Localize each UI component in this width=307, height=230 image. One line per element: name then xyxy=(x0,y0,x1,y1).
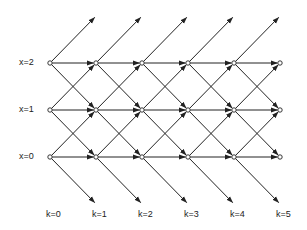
lattice-node xyxy=(48,61,52,65)
edge-up-arrow xyxy=(50,17,95,63)
lattice-node xyxy=(48,108,52,112)
edge-up-arrow xyxy=(188,17,233,63)
edge-up-arrow xyxy=(50,65,94,110)
column-label: k=3 xyxy=(184,209,199,219)
lattice-node xyxy=(94,108,98,112)
edge-up-arrow xyxy=(234,65,278,110)
edge-down-arrow xyxy=(50,110,94,155)
edge-down-arrow xyxy=(188,110,232,155)
edge-down-arrow xyxy=(142,110,186,155)
edge-down-arrow xyxy=(50,63,94,108)
edge-up-arrow xyxy=(234,17,279,63)
edge-down-arrow xyxy=(234,110,278,155)
edge-up-arrow xyxy=(234,112,278,157)
edge-up-arrow xyxy=(96,17,141,63)
row-label: x=1 xyxy=(19,104,34,114)
lattice-node xyxy=(140,61,144,65)
column-label: k=5 xyxy=(276,209,291,219)
lattice-node xyxy=(94,155,98,159)
lattice-node xyxy=(278,155,282,159)
lattice-node xyxy=(140,155,144,159)
column-label: k=0 xyxy=(46,209,61,219)
lattice-node xyxy=(94,61,98,65)
edge-down-arrow xyxy=(96,157,141,203)
edge-up-arrow xyxy=(96,112,140,157)
edge-down-arrow xyxy=(142,157,187,203)
edge-up-arrow xyxy=(142,17,187,63)
edge-down-arrow xyxy=(142,63,186,108)
lattice-node xyxy=(232,61,236,65)
row-label: x=2 xyxy=(19,57,34,67)
lattice-node xyxy=(232,108,236,112)
lattice-node xyxy=(186,155,190,159)
edge-up-arrow xyxy=(188,112,232,157)
row-label: x=0 xyxy=(19,151,34,161)
edge-down-arrow xyxy=(50,157,95,203)
lattice-node xyxy=(232,155,236,159)
column-label: k=1 xyxy=(92,209,107,219)
lattice-node xyxy=(186,108,190,112)
lattice-diagram xyxy=(0,0,307,230)
edge-up-arrow xyxy=(96,65,140,110)
edge-down-arrow xyxy=(188,157,233,203)
edge-down-arrow xyxy=(188,63,232,108)
lattice-node xyxy=(48,155,52,159)
edge-down-arrow xyxy=(234,157,279,203)
edge-up-arrow xyxy=(142,112,186,157)
edge-up-arrow xyxy=(188,65,232,110)
edge-up-arrow xyxy=(142,65,186,110)
lattice-node xyxy=(278,61,282,65)
column-label: k=4 xyxy=(230,209,245,219)
edge-down-arrow xyxy=(96,110,140,155)
lattice-node xyxy=(186,61,190,65)
column-label: k=2 xyxy=(138,209,153,219)
lattice-node xyxy=(140,108,144,112)
edge-down-arrow xyxy=(96,63,140,108)
lattice-node xyxy=(278,108,282,112)
edge-up-arrow xyxy=(50,112,94,157)
edge-down-arrow xyxy=(234,63,278,108)
